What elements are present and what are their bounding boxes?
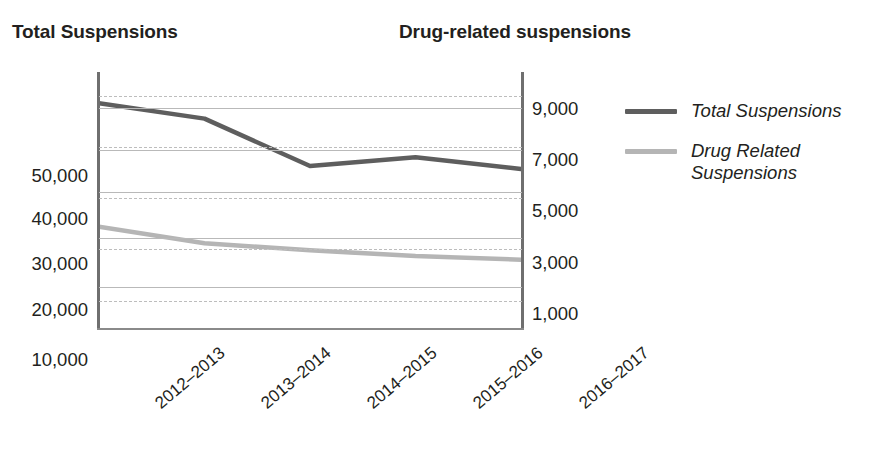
plot-area (99, 72, 522, 330)
series-lines (99, 72, 522, 330)
x-tick-2016-2017: 2016–2017 (576, 344, 652, 412)
gridline-right-3000 (99, 249, 522, 250)
left-axis-line (97, 72, 100, 330)
right-tick-1000: 1,000 (532, 305, 578, 324)
gridline-right-9000 (99, 96, 522, 97)
left-axis-title: Total Suspensions (12, 21, 178, 43)
x-tick-2014-2015: 2014–2015 (364, 344, 440, 412)
gridline-left-30000 (99, 192, 522, 193)
line-swatch-icon (625, 149, 677, 154)
right-tick-3000: 3,000 (532, 254, 578, 273)
left-tick-50000: 50,000 (31, 167, 88, 186)
gridline-right-7000 (99, 147, 522, 148)
gridline-left-10000 (99, 287, 522, 288)
left-axis-tick-labels: 10,000 20,000 30,000 40,000 50,000 (0, 72, 88, 330)
chart-legend: Total Suspensions Drug Related Suspensio… (625, 100, 865, 201)
right-axis-title: Drug-related suspensions (399, 21, 631, 43)
left-tick-40000: 40,000 (31, 210, 88, 229)
left-tick-30000: 30,000 (31, 255, 88, 274)
x-tick-2013-2014: 2013–2014 (258, 344, 334, 412)
x-tick-2015-2016: 2015–2016 (470, 344, 546, 412)
right-tick-5000: 5,000 (532, 202, 578, 221)
right-axis-line (521, 72, 524, 330)
gridline-left-40000 (99, 150, 522, 151)
legend-label-total-suspensions: Total Suspensions (691, 100, 842, 122)
right-tick-9000: 9,000 (532, 100, 578, 119)
line-total-suspensions (99, 103, 521, 169)
line-drug-related-suspensions (99, 227, 521, 260)
legend-item-total-suspensions: Total Suspensions (625, 100, 865, 122)
legend-item-drug-related-suspensions: Drug Related Suspensions (625, 140, 865, 184)
right-tick-7000: 7,000 (532, 151, 578, 170)
chart-figure: Total Suspensions Drug-related suspensio… (0, 0, 874, 456)
left-tick-10000: 10,000 (31, 351, 88, 370)
x-tick-2012-2013: 2012–2013 (152, 344, 228, 412)
legend-label-drug-related-suspensions: Drug Related Suspensions (691, 140, 865, 184)
gridline-right-1000 (99, 301, 522, 302)
gridline-left-20000 (99, 238, 522, 239)
right-axis-tick-labels: 1,000 3,000 5,000 7,000 9,000 (532, 72, 627, 330)
gridline-right-5000 (99, 198, 522, 199)
line-swatch-icon (625, 109, 677, 114)
left-tick-20000: 20,000 (31, 301, 88, 320)
bottom-axis-line (97, 328, 524, 330)
gridline-left-50000 (99, 108, 522, 109)
